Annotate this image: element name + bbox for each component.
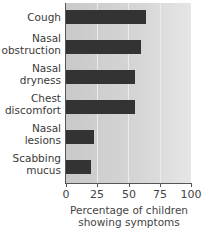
category-label: Chest discomfort [5, 92, 61, 116]
bar [66, 10, 146, 24]
x-tick [66, 183, 67, 187]
category-label: Scabbing mucus [13, 152, 61, 176]
category-label: Nasal lesions [25, 122, 61, 146]
bar [66, 160, 91, 174]
gridline-50 [128, 3, 129, 183]
y-axis [65, 3, 66, 184]
x-tick-label: 75 [145, 188, 175, 201]
x-tick [129, 183, 130, 187]
x-tick-label: 100 [176, 188, 202, 201]
bar [66, 40, 141, 54]
bar [66, 70, 135, 84]
bar [66, 100, 135, 114]
plot-area [66, 3, 191, 183]
x-tick [97, 183, 98, 187]
x-tick-label: 0 [51, 188, 81, 201]
gridline-25 [97, 3, 98, 183]
category-label: Cough [27, 11, 61, 23]
x-tick [191, 183, 192, 187]
gridline-75 [160, 3, 161, 183]
x-axis-label: Percentage of children showing symptoms [66, 204, 192, 228]
category-label: Nasal dryness [20, 62, 61, 86]
category-label: Nasal obstruction [1, 32, 61, 56]
bar [66, 130, 94, 144]
x-tick [160, 183, 161, 187]
x-tick-label: 50 [114, 188, 144, 201]
x-tick-label: 25 [82, 188, 112, 201]
